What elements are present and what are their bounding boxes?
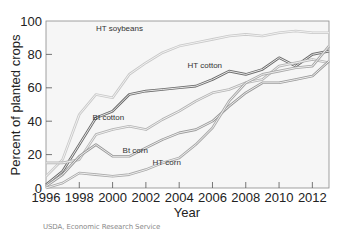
x-tick-label: 2008 [231,190,260,205]
x-tick-label: 2010 [265,190,294,205]
x-tick-label: 2004 [165,190,194,205]
x-tick-label: 2006 [198,190,227,205]
line-chart: 020406080100 199619982000200220042006200… [0,0,341,239]
y-axis-title: Percent of planted crops [8,34,23,175]
x-tick-label: 2012 [298,190,327,205]
y-tick-label: 60 [28,80,42,95]
y-tick-label: 80 [28,47,42,62]
bt-cotton-label: Bt cotton [93,113,125,122]
x-tick-label: 2000 [98,190,127,205]
ht-cotton-label: HT cotton [188,61,223,70]
y-tick-label: 40 [28,114,42,129]
x-axis-title: Year [174,205,201,220]
y-tick-label: 20 [28,147,42,162]
source-credit: USDA, Economic Research Service [43,223,160,231]
x-tick-label: 1998 [65,190,94,205]
x-tick-label: 1996 [32,190,61,205]
ht-soybeans-label: HT soybeans [96,24,143,33]
x-tick-label: 2002 [131,190,160,205]
y-tick-label: 100 [20,14,42,29]
ht-corn-label: HT corn [153,158,181,167]
bt-corn-label: Bt corn [123,146,148,155]
